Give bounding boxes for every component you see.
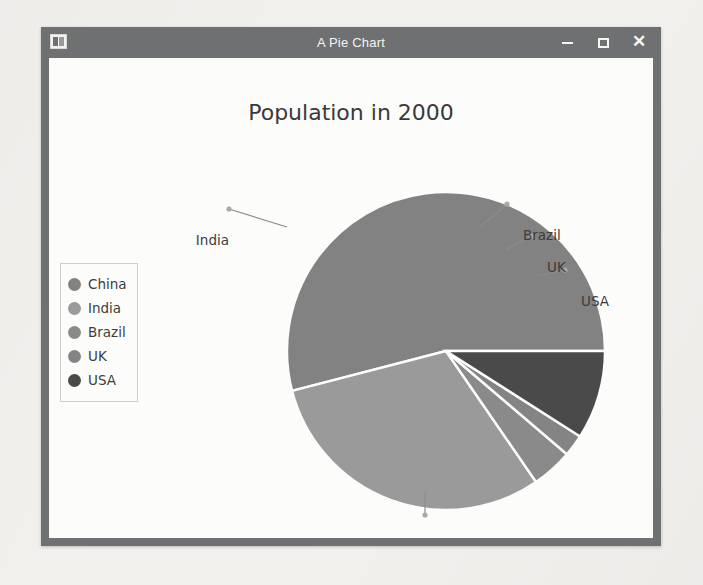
pie-label-brazil: Brazil (523, 227, 561, 243)
maximize-button[interactable] (585, 27, 621, 58)
maximize-icon (598, 38, 609, 48)
application-window: A Pie Chart ✕ Population in 2000 China I… (41, 27, 661, 546)
close-icon: ✕ (632, 33, 646, 50)
close-button[interactable]: ✕ (621, 27, 657, 58)
window-titlebar[interactable]: A Pie Chart ✕ (41, 27, 661, 58)
window-client-area: Population in 2000 China India Brazil UK… (49, 58, 653, 538)
minimize-icon (562, 42, 573, 44)
window-controls: ✕ (549, 27, 657, 58)
minimize-button[interactable] (549, 27, 585, 58)
pie-chart-svg: India Brazil UK USA China (49, 58, 653, 538)
pie-label-usa: USA (581, 293, 610, 309)
pie-chart-plot: India Brazil UK USA China (49, 58, 653, 538)
pie-label-uk: UK (547, 259, 567, 275)
leader-dot-india (226, 206, 231, 211)
leader-dot-brazil (504, 201, 509, 206)
leader-dot-china (422, 512, 427, 517)
pie-label-india: India (196, 232, 229, 248)
leader-line-india (229, 209, 287, 227)
